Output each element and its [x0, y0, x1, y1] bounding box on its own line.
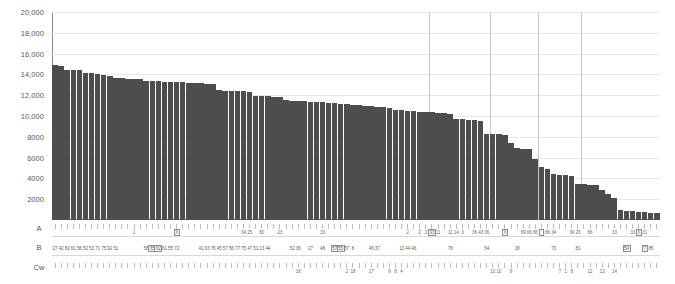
annotation-value: 36	[472, 230, 477, 235]
tick-mark	[535, 263, 536, 268]
tick-mark	[91, 263, 92, 268]
annotation-row-b: B 27428261565253717592515835626155724163…	[0, 241, 675, 256]
annotation-value	[540, 230, 542, 235]
tick-mark	[431, 263, 432, 268]
y-axis-labels: 20,00018,00016,00014,00012,00010,0008000…	[0, 0, 48, 232]
annotation-value: 57	[223, 246, 228, 251]
annotation-value: 12	[588, 269, 593, 274]
bar	[624, 211, 630, 220]
bar	[168, 82, 174, 220]
annotation-value: 52	[290, 246, 295, 251]
tick-mark	[389, 224, 390, 229]
bar	[295, 101, 301, 220]
annotation-row-a: A 1X3425802333222931111143364336X696666 …	[0, 222, 675, 237]
annotation-value: 27	[53, 246, 58, 251]
annotation-value: 33	[612, 230, 617, 235]
tick-mark	[261, 224, 262, 229]
annotation-value: 13	[259, 246, 264, 251]
y-tick-label: 14,000	[21, 70, 44, 79]
tick-mark	[395, 263, 396, 268]
tick-mark	[371, 224, 372, 229]
annotation-value: 36	[296, 246, 301, 251]
bar	[186, 83, 192, 220]
annotation-value: 42	[59, 246, 64, 251]
annotation-value: 36	[484, 230, 489, 235]
tick-mark	[638, 224, 639, 229]
annotation-value: 69	[521, 230, 526, 235]
tick-mark	[511, 224, 512, 229]
tick-mark	[267, 263, 268, 268]
annotation-value: 2	[346, 269, 348, 274]
tick-mark	[340, 263, 341, 268]
y-tick-label: 6000	[27, 153, 44, 162]
bar	[204, 84, 210, 220]
row-track-b: 2742826156525371759251583562615572416376…	[52, 241, 660, 256]
bar	[344, 104, 350, 220]
bar	[326, 103, 332, 220]
tick-mark	[158, 224, 159, 229]
tick-mark	[255, 224, 256, 229]
tick-mark	[188, 263, 189, 268]
tick-mark	[115, 224, 116, 229]
tick-mark	[565, 224, 566, 229]
tick-mark	[529, 224, 530, 229]
tick-mark	[243, 263, 244, 268]
bar	[551, 174, 557, 220]
tick-mark	[249, 263, 250, 268]
row-track-a: 1X3425802333222931111143364336X696666 86…	[52, 222, 660, 237]
bar	[478, 121, 484, 220]
tick-mark	[304, 263, 305, 268]
tick-mark	[474, 263, 475, 268]
annotation-rows: A 1X3425802333222931111143364336X696666 …	[0, 222, 675, 282]
tick-mark	[213, 224, 214, 229]
annotation-value: 53	[89, 246, 94, 251]
annotation-value: 46	[369, 246, 374, 251]
tick-mark	[492, 263, 493, 268]
annotation-value: 46	[411, 246, 416, 251]
annotation-value: 54	[484, 246, 489, 251]
bar	[472, 120, 478, 220]
y-tick-label: 20,000	[21, 8, 44, 17]
annotation-value: 7	[558, 269, 560, 274]
annotation-value: 66	[533, 230, 538, 235]
annotation-value: 78	[448, 246, 453, 251]
tick-mark	[656, 224, 657, 229]
bar	[490, 134, 496, 220]
tick-mark	[55, 224, 56, 229]
tick-mark	[504, 263, 505, 268]
tick-mark	[359, 224, 360, 229]
annotation-value: 3	[461, 230, 463, 235]
tick-mark	[176, 224, 177, 229]
tick-mark	[614, 263, 615, 268]
bar	[642, 212, 648, 220]
bar	[150, 81, 156, 220]
tick-mark	[352, 263, 353, 268]
tick-mark	[632, 224, 633, 229]
tick-mark	[407, 224, 408, 229]
tick-mark	[413, 263, 414, 268]
annotation-value: 10	[490, 269, 495, 274]
annotation-value: 76	[211, 246, 216, 251]
bar	[52, 65, 58, 220]
tick-mark	[67, 224, 68, 229]
annotation-value: 80	[259, 230, 264, 235]
bar	[235, 91, 241, 220]
annotation-value: 2	[425, 230, 427, 235]
annotation-value: 85	[648, 246, 653, 251]
bar	[380, 107, 386, 220]
tick-mark	[383, 263, 384, 268]
tick-mark	[170, 224, 171, 229]
tick-mark	[109, 224, 110, 229]
tick-mark	[140, 224, 141, 229]
tick-mark	[279, 224, 280, 229]
tick-mark	[298, 224, 299, 229]
tick-mark	[590, 263, 591, 268]
tick-mark	[626, 224, 627, 229]
annotation-value: 61	[162, 246, 167, 251]
annotation-value: 56	[229, 246, 234, 251]
tick-mark	[602, 224, 603, 229]
bar	[575, 184, 581, 220]
annotation-value: 43	[478, 230, 483, 235]
tick-mark	[577, 263, 578, 268]
row-label-b: B	[29, 243, 49, 252]
